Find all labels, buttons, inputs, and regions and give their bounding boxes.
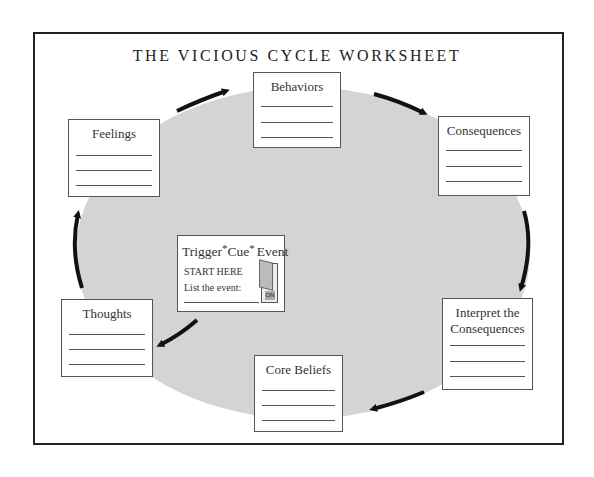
answer-line[interactable] <box>450 345 525 346</box>
thoughts-box: Thoughts <box>61 299 153 377</box>
answer-line[interactable] <box>261 137 333 138</box>
cue-word: Cue <box>228 244 250 259</box>
trigger-cue-event-box: Trigger*Cue*Event START HERE List the ev… <box>177 235 285 312</box>
asterisk: * <box>249 242 255 254</box>
answer-line[interactable] <box>69 349 145 350</box>
answer-line[interactable] <box>261 106 333 107</box>
thoughts-label: Thoughts <box>62 306 152 321</box>
core-beliefs-label: Core Beliefs <box>255 362 342 377</box>
answer-line[interactable] <box>262 405 335 406</box>
interpret-consequences-box: Interpret the Consequences <box>442 298 533 390</box>
switch-on-label: ON <box>265 291 275 300</box>
answer-line[interactable] <box>69 334 145 335</box>
answer-line[interactable] <box>450 376 525 377</box>
page-title: THE VICIOUS CYCLE WORKSHEET <box>0 47 594 65</box>
event-answer-line[interactable] <box>184 302 259 303</box>
consequences-label: Consequences <box>439 123 529 138</box>
start-here-label: START HERE <box>184 266 243 277</box>
behaviors-box: Behaviors <box>253 72 341 148</box>
answer-line[interactable] <box>262 420 335 421</box>
interpret-label-line1: Interpret the <box>443 305 532 320</box>
list-event-label: List the event: <box>184 282 241 293</box>
answer-line[interactable] <box>76 170 152 171</box>
answer-line[interactable] <box>450 361 525 362</box>
light-switch-icon: ON <box>261 263 278 303</box>
event-word: Event <box>257 244 289 259</box>
answer-line[interactable] <box>76 185 152 186</box>
answer-line[interactable] <box>76 155 152 156</box>
answer-line[interactable] <box>261 122 333 123</box>
core-beliefs-box: Core Beliefs <box>254 355 343 432</box>
consequences-box: Consequences <box>438 116 530 196</box>
interpret-label-line2: Consequences <box>443 321 532 336</box>
answer-line[interactable] <box>262 390 335 391</box>
feelings-box: Feelings <box>68 119 160 197</box>
trigger-title: Trigger*Cue*Event <box>182 242 288 260</box>
behaviors-label: Behaviors <box>254 79 340 94</box>
feelings-label: Feelings <box>69 126 159 141</box>
answer-line[interactable] <box>446 181 522 182</box>
answer-line[interactable] <box>69 364 145 365</box>
trigger-word: Trigger <box>182 244 222 259</box>
switch-lever <box>259 259 273 290</box>
answer-line[interactable] <box>446 150 522 151</box>
answer-line[interactable] <box>446 166 522 167</box>
